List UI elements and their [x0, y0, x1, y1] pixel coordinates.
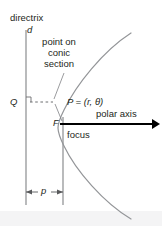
footer-band	[0, 211, 162, 226]
conic-section-diagram: directrix d point on conic section Q P =…	[0, 0, 162, 226]
p-point-label: P = (r, θ)	[67, 96, 103, 107]
focus-label: focus	[67, 129, 90, 140]
diagram-canvas	[0, 0, 162, 226]
directrix-symbol-label: d	[27, 24, 32, 35]
focus-point-label: F	[53, 118, 59, 129]
leader-line-point-on-conic	[54, 73, 64, 99]
polar-axis-label: polar axis	[96, 108, 137, 119]
polar-axis-arrowhead	[152, 119, 160, 129]
p-arrowhead-left	[26, 189, 32, 194]
q-point-label: Q	[10, 96, 17, 107]
right-angle-marker	[26, 97, 31, 102]
directrix-label: directrix	[10, 12, 43, 23]
p-arrowhead-right	[57, 189, 63, 194]
p-distance-label: p	[41, 185, 46, 196]
point-on-conic-label: point on conic section	[33, 36, 85, 69]
